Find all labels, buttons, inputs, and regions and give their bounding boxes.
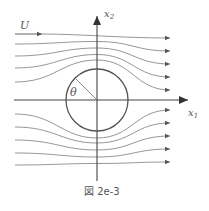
x1-axis-label: x1 <box>188 107 198 120</box>
lower-streamline-1 <box>15 110 170 138</box>
flow-around-cylinder-diagram: U x2 x1 θ 図 2e-3 <box>0 0 209 211</box>
upper-streamline-1 <box>42 34 170 38</box>
x2-axis-label: x2 <box>104 8 115 21</box>
radius-line <box>75 78 97 100</box>
upper-streamline-4 <box>15 55 170 78</box>
figure-caption: 図 2e-3 <box>84 186 120 197</box>
lower-streamline-5 <box>15 162 170 165</box>
theta-label: θ <box>70 86 77 99</box>
upper-streamline-2 <box>15 42 170 52</box>
upper-streamline-5 <box>15 60 170 90</box>
lower-streamline-2 <box>15 123 170 143</box>
upper-streamline-3 <box>15 48 170 64</box>
freestream-label: U <box>20 19 30 32</box>
